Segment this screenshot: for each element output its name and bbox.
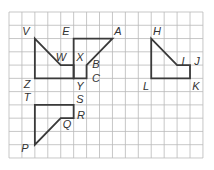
- vertex-label-j: J: [193, 55, 200, 67]
- vertex-label-b: B: [92, 58, 99, 70]
- vertex-label-q: Q: [63, 118, 72, 130]
- vertex-label-a: A: [113, 25, 121, 37]
- vertex-label-w: W: [56, 51, 68, 63]
- vertex-label-c: C: [92, 72, 100, 84]
- vertex-label-s: S: [76, 93, 84, 105]
- grid-lines: [9, 12, 203, 158]
- vertex-label-v: V: [22, 25, 31, 37]
- vertex-label-z: Z: [23, 78, 32, 90]
- vertex-label-p: P: [21, 142, 29, 154]
- vertex-label-x: X: [75, 51, 84, 63]
- vertex-label-k: K: [192, 80, 200, 92]
- vertex-label-h: H: [153, 25, 161, 37]
- vertex-label-i: I: [181, 55, 184, 67]
- grid-diagram: VEAHWXBIJCZYLKTSRQP: [0, 0, 214, 170]
- vertex-label-r: R: [77, 109, 85, 121]
- vertex-label-t: T: [24, 91, 32, 103]
- vertex-label-y: Y: [76, 80, 84, 92]
- vertex-label-e: E: [62, 25, 70, 37]
- VWZ-figure: [35, 39, 74, 79]
- vertex-label-l: L: [143, 80, 149, 92]
